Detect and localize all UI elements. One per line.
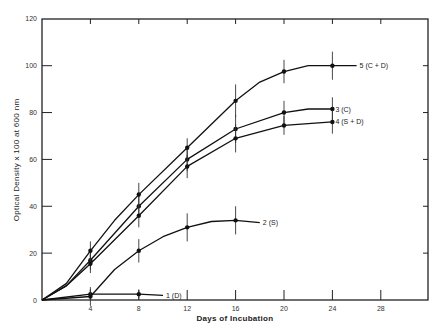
data-point-marker <box>185 146 189 150</box>
data-point-marker <box>233 99 237 103</box>
data-point-marker <box>282 110 286 114</box>
y-tick-label: 20 <box>29 250 37 257</box>
y-tick-label: 0 <box>33 297 37 304</box>
data-point-marker <box>185 225 189 229</box>
plot-frame <box>42 19 428 300</box>
data-point-marker <box>282 123 286 127</box>
x-tick-label: 20 <box>280 305 288 312</box>
y-axis-ticks: 020406080100120 <box>25 15 428 303</box>
y-tick-label: 120 <box>25 15 37 22</box>
data-point-marker <box>330 120 334 124</box>
y-tick-label: 40 <box>29 203 37 210</box>
y-tick-label: 60 <box>29 156 37 163</box>
plot-border <box>42 19 428 300</box>
series-4: 4 (S + D) <box>42 110 364 300</box>
data-point-marker <box>233 136 237 140</box>
series-lines: 1 (D)2 (S)3 (C)4 (S + D)5 (C + D) <box>42 52 388 306</box>
series-5: 5 (C + D) <box>42 52 388 300</box>
x-axis-ticks: 481216202428 <box>88 19 384 312</box>
series-line <box>42 220 260 300</box>
series-label: 5 (C + D) <box>360 62 389 70</box>
growth-curve-chart: 481216202428 020406080100120 1 (D)2 (S)3… <box>0 0 441 333</box>
data-point-marker <box>137 213 141 217</box>
x-tick-label: 4 <box>88 305 92 312</box>
x-axis-title: Days of Incubation <box>197 314 274 323</box>
data-point-marker <box>185 164 189 168</box>
y-tick-label: 100 <box>25 62 37 69</box>
data-point-marker <box>137 292 141 296</box>
data-point-marker <box>88 261 92 265</box>
x-tick-label: 12 <box>183 305 191 312</box>
data-point-marker <box>137 192 141 196</box>
series-2: 2 (S) <box>42 206 278 306</box>
data-point-marker <box>88 294 92 298</box>
series-label: 4 (S + D) <box>335 118 363 126</box>
series-label: 2 (S) <box>263 219 278 227</box>
x-tick-label: 16 <box>232 305 240 312</box>
x-tick-label: 8 <box>137 305 141 312</box>
y-tick-label: 80 <box>29 109 37 116</box>
data-point-marker <box>282 69 286 73</box>
series-label: 3 (C) <box>335 106 351 114</box>
data-point-marker <box>137 249 141 253</box>
series-label: 1 (D) <box>166 292 182 300</box>
x-tick-label: 28 <box>377 305 385 312</box>
y-axis-title: Optical Density x 100 at 600 nm <box>12 99 21 222</box>
series-3: 3 (C) <box>42 97 351 300</box>
data-point-marker <box>88 249 92 253</box>
data-point-marker <box>330 63 334 67</box>
series-line <box>42 109 332 300</box>
x-tick-label: 24 <box>329 305 337 312</box>
data-point-marker <box>233 218 237 222</box>
